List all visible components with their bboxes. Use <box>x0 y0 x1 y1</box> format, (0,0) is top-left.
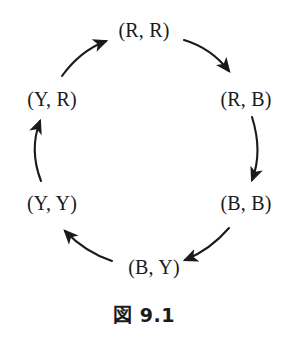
figure-container: (R, R) (R, B) (B, B) (B, Y) (Y, Y) (Y, R… <box>0 0 288 341</box>
edge-by-to-yy <box>65 231 112 261</box>
node-label-bb: (B, B) <box>220 193 271 213</box>
node-label-yy: (Y, Y) <box>27 193 77 213</box>
edge-rb-to-bb <box>252 117 258 180</box>
cycle-diagram-svg <box>0 0 288 341</box>
edge-bb-to-by <box>185 228 229 260</box>
edge-yr-to-rr <box>62 41 106 76</box>
edge-rr-to-rb <box>184 40 229 71</box>
figure-caption: 図 9.1 <box>0 300 288 327</box>
node-label-by: (B, Y) <box>128 257 180 277</box>
node-label-rb: (R, B) <box>220 89 271 109</box>
node-label-rr: (R, R) <box>118 20 169 40</box>
edge-yy-to-yr <box>35 121 41 181</box>
node-label-yr: (Y, R) <box>27 89 77 109</box>
